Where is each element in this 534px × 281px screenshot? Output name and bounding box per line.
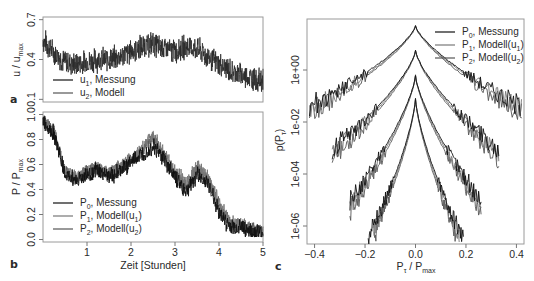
figure: 0.10.40.7 u / umax u1, Messungu2, Modell… [0,0,534,281]
panel-c-y-axis: 1e+001e-021e-041e-06 [289,55,307,239]
x-tick-label: 2 [128,246,134,258]
x-tick-label: 1 [84,246,90,258]
x-tick-label: 0.2 [459,248,474,260]
y-tick-label: 0.7 [25,12,37,27]
panel-c-x-axis: −0.4−0.20.00.20.4 [304,244,524,260]
legend-item: P1, Modell(u1) [53,210,142,223]
panel-a-y-label: u / umax [10,43,24,77]
legend-label: P0, Messung [80,197,137,210]
legend-label: P1, Modell(u1) [80,210,142,223]
y-tick-label: 0.4 [25,182,37,197]
panel-a-legend: u1, Messungu2, Modell [53,74,136,100]
legend-label: P2, Modell(u2) [80,223,142,236]
panel-b-x-label: Zeit [Stunden] [120,259,185,271]
panel-c: 1e+001e-021e-041e-06 −0.4−0.20.00.20.4 p… [273,19,524,274]
y-tick-label: 0.8 [25,132,37,147]
panel-c-y-label: p(Pτ) [273,129,287,152]
legend-item: P0, Messung [435,26,519,39]
distribution-curve [332,51,415,157]
distribution-curve [416,75,482,209]
distribution-curve [416,50,499,157]
y-tick-label: 1e-04 [289,160,301,187]
x-tick-label: 3 [172,246,178,258]
x-tick-label: −0.4 [304,248,325,260]
y-tick-label: 0.6 [25,157,37,172]
panel-b-legend: P0, MessungP1, Modell(u1)P2, Modell(u2) [53,197,142,236]
y-tick-label: 0.0 [25,232,37,247]
y-tick-label: 1e-06 [289,212,301,239]
x-tick-label: 4 [216,246,222,258]
panel-b-y-axis: 0.00.20.40.60.81.0 [25,107,43,247]
panel-a: 0.10.40.7 u / umax u1, Messungu2, Modell… [10,12,263,106]
distribution-curve [416,75,482,204]
legend-label: P1, Modell(u1) [462,39,524,52]
panel-a-y-axis: 0.10.40.7 [25,12,43,106]
y-tick-label: 0.1 [25,92,37,107]
panel-c-letter: c [275,260,282,273]
legend-item: u2, Modell [53,87,124,100]
panel-b-series [43,116,263,237]
panel-b: 0.00.20.40.60.81.0 12345 P / Pmax Zeit [… [10,107,266,271]
svg-text:u / umax: u / umax [10,43,24,77]
distribution-curve [416,98,456,241]
x-tick-label: 0.0 [408,248,423,260]
panel-b-y-label: P / Pmax [10,159,24,195]
x-tick-label: −0.2 [355,248,376,260]
distribution-curve [310,26,416,116]
legend-item: P0, Messung [53,197,137,210]
y-tick-label: 1.0 [25,107,37,122]
panel-a-letter: a [10,93,17,106]
distribution-curve [310,25,416,118]
distribution-curve [332,50,415,159]
legend-item: P1, Modell(u1) [435,39,524,52]
x-tick-label: 0.4 [509,248,524,260]
series-u-line [43,30,263,91]
y-tick-label: 0.4 [25,52,37,67]
y-tick-label: 1e-02 [289,108,301,135]
panel-a-series [43,30,263,91]
legend-label: P2, Modell(u2) [462,52,524,65]
panel-c-x-label: Pτ / Pmax [397,260,436,274]
svg-text:Pτ / Pmax: Pτ / Pmax [397,260,436,274]
panel-b-x-axis: 12345 [84,242,266,258]
legend-label: u2, Modell [80,87,124,100]
panel-b-letter: b [10,258,18,271]
legend-item: u1, Messung [53,74,136,87]
x-tick-label: 5 [260,246,266,258]
legend-label: P0, Messung [462,26,519,39]
legend-item: P2, Modell(u2) [53,223,142,236]
legend-label: u1, Messung [80,74,136,87]
y-tick-label: 1e+00 [289,55,301,85]
svg-text:P / Pmax: P / Pmax [10,159,24,195]
panel-c-legend: P0, MessungP1, Modell(u1)P2, Modell(u2) [435,26,524,65]
svg-text:p(Pτ): p(Pτ) [273,129,287,152]
y-tick-label: 0.2 [25,207,37,222]
